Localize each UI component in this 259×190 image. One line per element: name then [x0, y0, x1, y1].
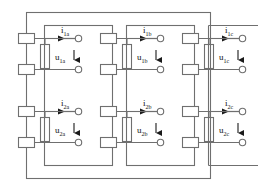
terminal-2c-bot — [239, 139, 245, 145]
diagram-canvas: i1a u1a i2a u2a i1b u1b i2b u2b i1c u1c … — [0, 0, 258, 190]
frame-terminal-1b-bot — [101, 65, 117, 75]
current-label-1c: i1c — [225, 25, 234, 37]
terminal-1c-bot — [239, 66, 245, 72]
terminal-1a-top — [75, 35, 81, 41]
voltage-label-2a: u2a — [55, 125, 66, 137]
voltage-label-2b: u2b — [137, 125, 148, 137]
frame-terminal-2a-bot — [19, 138, 35, 148]
current-label-1a: i1a — [61, 25, 70, 37]
frame-terminal-2b-bot — [101, 138, 117, 148]
voltage-label-1b: u1b — [137, 52, 148, 64]
phase-box-c — [209, 26, 259, 166]
terminal-2a-bot — [75, 139, 81, 145]
terminal-2b-bot — [157, 139, 163, 145]
voltage-label-1a: u1a — [55, 52, 66, 64]
current-label-2c: i2c — [225, 98, 234, 110]
voltage-label-2c: u2c — [219, 125, 230, 137]
frame-terminal-1b-top — [101, 34, 117, 44]
frame-terminal-2c-bot — [183, 138, 199, 148]
frame-terminal-1a-bot — [19, 65, 35, 75]
current-label-2b: i2b — [143, 98, 152, 110]
terminal-2a-top — [75, 108, 81, 114]
frame-terminal-2b-top — [101, 107, 117, 117]
current-label-1b: i1b — [143, 25, 152, 37]
circuit-schematic: i1a u1a i2a u2a i1b u1b i2b u2b i1c u1c … — [0, 0, 258, 190]
frame-terminal-2a-top — [19, 107, 35, 117]
terminal-1a-bot — [75, 66, 81, 72]
terminal-2c-top — [239, 108, 245, 114]
current-label-2a: i2a — [61, 98, 70, 110]
terminal-1b-top — [157, 35, 163, 41]
frame-terminal-2c-top — [183, 107, 199, 117]
terminal-2b-top — [157, 108, 163, 114]
frame-terminal-1c-top — [183, 34, 199, 44]
frame-terminal-1a-top — [19, 34, 35, 44]
terminal-1b-bot — [157, 66, 163, 72]
frame-terminal-1c-bot — [183, 65, 199, 75]
terminal-1c-top — [239, 35, 245, 41]
voltage-label-1c: u1c — [219, 52, 230, 64]
